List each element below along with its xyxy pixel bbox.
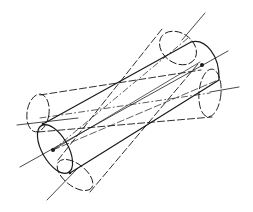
solid-cylinder	[30, 41, 219, 178]
steep-left-edge	[58, 29, 162, 160]
shallow-axis-right	[210, 87, 239, 92]
shallow-left-end	[24, 93, 51, 134]
focus-ray-2	[53, 80, 218, 150]
dashed-cylinder-shallow	[24, 68, 223, 133]
left-upper-junction	[42, 123, 45, 126]
axes	[17, 13, 239, 200]
left-lower-junction	[69, 172, 72, 175]
steep-axis-right	[182, 13, 205, 40]
left-focus-point	[51, 148, 55, 152]
cylinder-diagram	[0, 0, 253, 212]
right-focus-point	[200, 63, 204, 67]
shallow-axis-mid	[40, 93, 210, 118]
shallow-top-edge	[40, 70, 201, 95]
steep-right-edge	[90, 64, 198, 192]
